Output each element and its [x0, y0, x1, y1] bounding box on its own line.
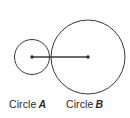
circle-labels-row: CircleA CircleB	[0, 97, 130, 111]
circle-a-center-dot	[30, 55, 33, 58]
circle-b-label: CircleB	[66, 98, 103, 110]
circle-b-label-word: Circle	[66, 98, 93, 110]
circle-b-center-dot	[86, 55, 89, 58]
circle-a-label-word: Circle	[9, 98, 36, 110]
circle-a-label: CircleA	[9, 98, 46, 110]
circle-a-label-letter: A	[36, 98, 46, 110]
circle-b-label-letter: B	[93, 98, 103, 110]
circles-figure: CircleA CircleB	[0, 0, 130, 118]
